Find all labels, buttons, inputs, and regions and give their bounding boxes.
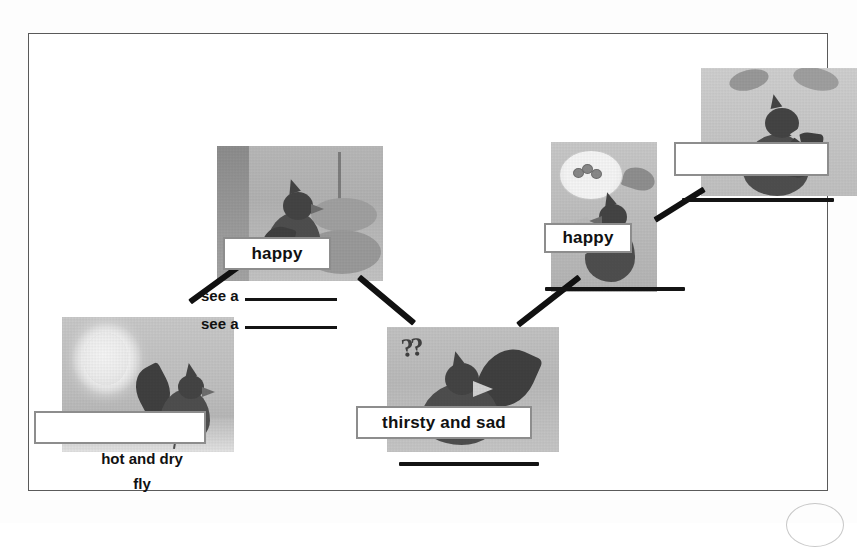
prompt-text: see a bbox=[201, 287, 239, 304]
see-a-prompt-1: see a bbox=[201, 287, 337, 304]
worksheet-frame: ?? bbox=[28, 33, 828, 491]
prompt-blank-rule[interactable] bbox=[245, 326, 337, 329]
connector-happy-left-to-panel3 bbox=[357, 275, 416, 326]
caption-fly: fly bbox=[62, 475, 222, 492]
crow-drinking-panel bbox=[701, 68, 857, 196]
connector-happy-right-to-panel5 bbox=[653, 187, 705, 223]
blank-line-under-panel-3[interactable] bbox=[399, 462, 539, 466]
label-box-empty-bottom-left[interactable] bbox=[34, 411, 206, 444]
caption-hot-and-dry: hot and dry bbox=[62, 450, 222, 467]
connector-panel3-to-happy-right bbox=[516, 275, 581, 328]
label-box-happy-right[interactable]: happy bbox=[544, 223, 632, 253]
label-box-empty-top-right[interactable] bbox=[674, 142, 829, 176]
label-box-thirsty-and-sad[interactable]: thirsty and sad bbox=[356, 406, 532, 439]
blank-line-under-panel-4[interactable] bbox=[545, 287, 685, 291]
scan-grain bbox=[701, 68, 857, 196]
label-box-happy-left[interactable]: happy bbox=[223, 237, 331, 270]
prompt-blank-rule[interactable] bbox=[245, 298, 337, 301]
see-a-prompt-2: see a bbox=[201, 315, 337, 332]
scan-grain bbox=[551, 142, 657, 292]
crow-idea-panel bbox=[551, 142, 657, 292]
prompt-text: see a bbox=[201, 315, 239, 332]
blank-line-under-panel-5[interactable] bbox=[682, 198, 834, 202]
page-number-circle bbox=[786, 503, 844, 547]
